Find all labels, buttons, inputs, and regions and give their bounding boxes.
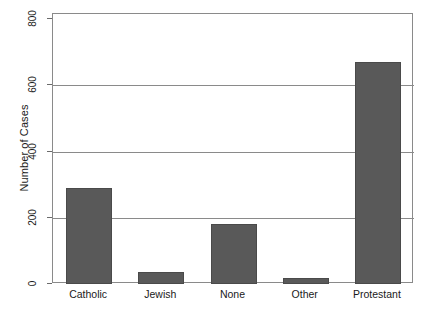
bar-chart-figure: Number of Cases 0200400600800 CatholicJe… [0,0,431,310]
x-tick-label: Jewish [124,287,196,301]
x-tick-label: Other [269,287,341,301]
y-tick-label: 600 [26,68,39,102]
y-tick-label: 0 [26,267,39,301]
plot-area [52,13,413,283]
x-tick-label: Protestant [341,287,413,301]
y-tick-mark [47,283,52,284]
bar-jewish [138,272,184,284]
x-tick-label: None [196,287,268,301]
bar-none [211,224,257,284]
bar-protestant [355,62,401,284]
x-tick-label: Catholic [52,287,124,301]
y-tick-label: 800 [26,2,39,36]
y-tick-label: 400 [26,134,39,168]
bar-catholic [66,188,112,284]
bar-other [283,278,329,284]
y-tick-label: 200 [26,200,39,234]
